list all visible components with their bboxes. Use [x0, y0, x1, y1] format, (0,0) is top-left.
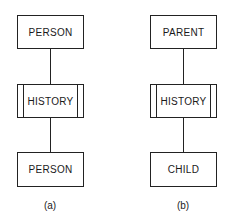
entity-label: PERSON [28, 27, 72, 38]
entity-box-bottom: CHILD [150, 152, 217, 187]
relationship-inner-border-right [77, 85, 78, 117]
entity-label: CHILD [168, 164, 200, 175]
relationship-inner-border-left [156, 85, 157, 117]
diagram-caption: (b) [163, 200, 203, 211]
entity-box-bottom: PERSON [17, 152, 84, 187]
connector-line [50, 49, 51, 84]
relationship-label: HISTORY [27, 96, 73, 107]
entity-box-top: PARENT [150, 15, 217, 49]
relationship-inner-border-left [23, 85, 24, 117]
relationship-label: HISTORY [160, 96, 206, 107]
connector-line [50, 118, 51, 152]
connector-line [183, 118, 184, 152]
relationship-inner-border-right [210, 85, 211, 117]
entity-label: PARENT [163, 27, 205, 38]
relationship-box: HISTORY [150, 84, 217, 118]
diagram-caption: (a) [30, 200, 70, 211]
connector-line [183, 49, 184, 84]
relationship-box: HISTORY [17, 84, 84, 118]
entity-box-top: PERSON [17, 15, 84, 49]
entity-label: PERSON [28, 164, 72, 175]
